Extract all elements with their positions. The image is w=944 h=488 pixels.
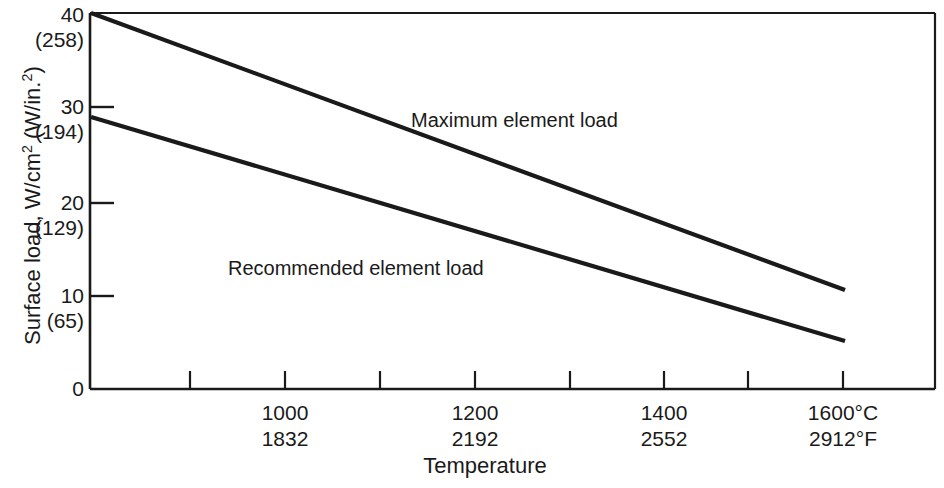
x-tick-celsius-1000: 1000 xyxy=(215,402,355,423)
y-axis-title-text: Surface load, W/cm2 (W/in.2) xyxy=(20,66,45,345)
x-tick-celsius-1600: 1600°C xyxy=(773,402,913,423)
chart-figure: 40 (258) 30 (194) 20 (129) 10 (65) 0 Sur… xyxy=(0,0,944,488)
plot-frame xyxy=(90,13,935,389)
y-tick-paren-40: (258) xyxy=(0,29,84,50)
y-tick-label-40: 40 (258) xyxy=(0,4,84,50)
x-tick-label-1000: 1000 1832 xyxy=(215,402,355,449)
x-axis-ticks xyxy=(190,371,843,389)
x-tick-fahrenheit-1200: 2192 xyxy=(405,428,545,449)
y-tick-value-40: 40 xyxy=(0,4,84,25)
x-tick-celsius-1200: 1200 xyxy=(405,402,545,423)
x-tick-fahrenheit-1400: 2552 xyxy=(594,428,734,449)
y-axis-title: Surface load, W/cm2 (W/in.2) xyxy=(22,66,44,345)
y-tick-label-0: 0 xyxy=(0,378,84,399)
x-tick-fahrenheit-1600: 2912°F xyxy=(773,428,913,449)
x-tick-label-1200: 1200 2192 xyxy=(405,402,545,449)
x-tick-fahrenheit-1000: 1832 xyxy=(215,428,355,449)
x-tick-label-1400: 1400 2552 xyxy=(594,402,734,449)
series-label-recommended-element-load: Recommended element load xyxy=(228,258,484,278)
series-label-maximum-element-load: Maximum element load xyxy=(411,110,618,130)
x-tick-label-1600: 1600°C 2912°F xyxy=(773,402,913,449)
y-tick-value-0: 0 xyxy=(0,378,84,399)
y-axis-ticks xyxy=(90,107,114,296)
x-tick-celsius-1400: 1400 xyxy=(594,402,734,423)
x-axis-title: Temperature xyxy=(385,455,585,477)
